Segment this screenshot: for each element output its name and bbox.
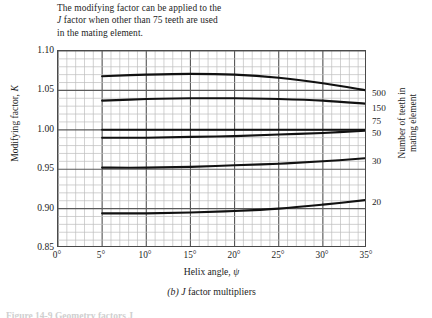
plot-area <box>57 50 366 247</box>
note-line-3: in the mating element. <box>57 27 317 39</box>
x-tick-15: 15° <box>173 250 207 260</box>
caption-part-label: (b) <box>167 286 178 297</box>
y-axis-symbol-K: K <box>9 85 20 91</box>
right-axis-title-line-1: Number of teeth in <box>397 71 408 175</box>
curve-150 <box>102 98 366 104</box>
x-axis-title: Helix angle, ψ <box>57 266 366 277</box>
curve-label-30: 30 <box>372 157 398 167</box>
figure-caption: (b) J factor multipliers <box>57 286 366 297</box>
curve-500 <box>102 74 366 91</box>
y-tick-1.00: 1.00 <box>26 124 54 134</box>
y-tick-1.10: 1.10 <box>26 45 54 55</box>
curve-label-150: 150 <box>372 104 398 114</box>
y-tick-0.90: 0.90 <box>26 203 54 213</box>
right-axis-title-line-2: mating element <box>408 71 419 175</box>
x-tick-10: 10° <box>128 250 162 260</box>
note-line-2: J factor when other than 75 teeth are us… <box>57 14 317 26</box>
figure-note: The modifying factor can be applied to t… <box>57 2 317 39</box>
x-tick-0: 0° <box>40 250 74 260</box>
x-tick-35: 35° <box>349 250 383 260</box>
x-tick-20: 20° <box>217 250 251 260</box>
y-tick-0.95: 0.95 <box>26 163 54 173</box>
curve-30 <box>102 158 366 168</box>
caption-text: factor multipliers <box>186 286 256 297</box>
curve-label-75: 75 <box>372 117 398 127</box>
curve-label-500: 500 <box>372 89 398 99</box>
right-axis-title: Number of teeth in mating element <box>397 71 419 175</box>
curve-label-50: 50 <box>372 129 398 139</box>
y-axis-title-text: Modifying factor, <box>9 92 20 162</box>
x-axis-symbol-psi: ψ <box>233 266 239 277</box>
x-tick-5: 5° <box>84 250 118 260</box>
x-tick-30: 30° <box>305 250 339 260</box>
figure-root: The modifying factor can be applied to t… <box>0 0 432 318</box>
x-axis-title-text: Helix angle, <box>184 266 233 277</box>
curve-20 <box>102 200 366 213</box>
y-axis-tick-column: 1.10 1.05 1.00 0.95 0.90 0.85 <box>23 0 54 318</box>
x-axis-tick-row: 0° 5° 10° 15° 20° 25° 30° 35° <box>0 250 432 264</box>
page-footer-text: Figure 14-9 Geometry factors J <box>6 311 426 318</box>
y-axis-title: Modifying factor, K <box>9 64 20 184</box>
curve-label-20: 20 <box>372 198 398 208</box>
curve-lines <box>58 51 366 247</box>
y-tick-1.05: 1.05 <box>26 84 54 94</box>
curve-50 <box>102 131 366 138</box>
x-tick-25: 25° <box>261 250 295 260</box>
note-line-2-rest: factor when other than 75 teeth are used <box>61 15 218 25</box>
note-line-1: The modifying factor can be applied to t… <box>57 2 317 14</box>
